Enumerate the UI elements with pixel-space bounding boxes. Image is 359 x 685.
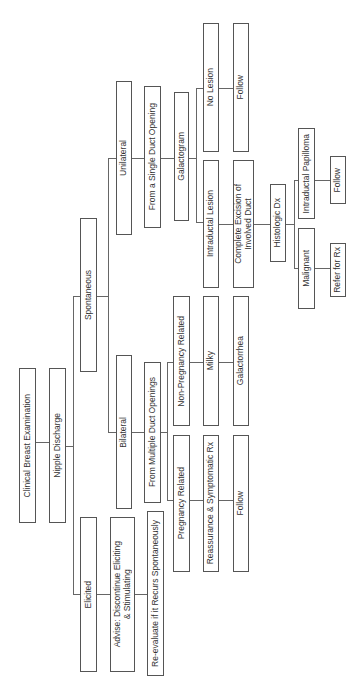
node-multiple-duct: From Multiple Duct Openings [144,362,161,503]
connector [190,500,203,501]
connector [294,180,295,268]
node-label: Follow [236,491,246,516]
connector [219,500,233,501]
node-reassurance: Reassurance & Symptomatic Rx [203,435,219,572]
connector [97,296,108,297]
node-label: Bilateral [119,417,129,448]
node-follow-papilloma: Follow [330,156,346,204]
node-intraductal-papilloma: Intraductal Papilloma [298,128,315,219]
node-unilateral: Unilateral [116,81,132,235]
connector [66,446,73,447]
connector [219,88,233,89]
node-advise: Advise: Discontinue Eliciting & Stimulat… [110,517,135,672]
connector [35,442,50,443]
node-clinical-breast-examination: Clinical Breast Examination [19,368,36,523]
connector [254,224,270,225]
connector [189,158,196,159]
node-follow-no-lesion: Follow [233,23,249,152]
node-label: From Multiple Duct Openings [148,377,158,487]
node-follow-pregnancy: Follow [233,435,249,572]
connector [108,158,109,432]
node-label: Refer for Rx [333,247,343,293]
node-label: Reassurance & Symptomatic Rx [206,442,216,564]
connector [73,296,74,594]
node-label: Galactorrhea [236,336,246,385]
node-spontaneous: Spontaneous [80,218,97,372]
node-label: Nipple Discharge [53,413,63,478]
node-galactogram: Galactogram [174,92,189,221]
node-label: Follow [333,168,343,193]
connector [190,362,203,363]
node-label: Intraductal Papilloma [302,134,312,213]
node-label: Milky [206,351,216,370]
node-intraductal-lesion: Intraductal Lesion [203,160,219,288]
node-single-duct: From a Single Duct Opening [144,86,161,228]
node-label: Malignant [302,250,312,287]
node-nipple-discharge: Nipple Discharge [49,368,66,523]
node-label: Histologic Dx [273,198,283,248]
connector [315,268,330,269]
node-reevaluate: Re-evaluate if it Recurs Spontaneously [147,511,164,676]
node-galactorrhea: Galactorrhea [233,296,249,426]
node-label: Non-Pregnancy Related [177,316,187,407]
node-label: Re-evaluate if it Recurs Spontaneously [151,520,161,667]
connector [97,594,110,595]
node-label: Follow [236,75,246,100]
node-milky: Milky [203,296,219,426]
connector [161,158,174,159]
connector [108,432,116,433]
connector [167,362,168,500]
node-non-pregnancy-related: Non-Pregnancy Related [173,296,190,426]
connector [135,594,147,595]
node-malignant: Malignant [298,228,315,309]
node-bilateral: Bilateral [116,355,132,509]
node-label: No Lesion [206,68,216,106]
node-label: Clinical Breast Examination [23,394,33,497]
connector [73,594,80,595]
connector [219,362,233,363]
connector [196,222,203,223]
node-pregnancy-related: Pregnancy Related [173,435,190,572]
connector [108,158,116,159]
node-label: From a Single Duct Opening [148,103,158,210]
connector [219,224,233,225]
node-label: Pregnancy Related [177,467,187,539]
connector [132,158,144,159]
node-no-lesion: No Lesion [203,23,219,152]
connector [196,88,197,222]
node-histologic-dx: Histologic Dx [270,184,286,262]
connector [132,432,144,433]
node-label: Spontaneous [84,270,94,320]
node-label: Unilateral [119,140,129,176]
node-label: Elicited [84,581,94,608]
node-refer-for-rx: Refer for Rx [330,243,346,297]
node-elicited: Elicited [80,517,97,672]
node-label: Complete Excision of Involved Duct [234,184,253,264]
node-complete-excision: Complete Excision of Involved Duct [233,160,254,288]
node-label: Intraductal Lesion [206,190,216,257]
connector [315,180,330,181]
node-label: Advise: Discontinue Eliciting & Stimulat… [113,541,132,647]
connector [196,88,203,89]
connector [286,224,294,225]
node-label: Galactogram [177,132,187,181]
